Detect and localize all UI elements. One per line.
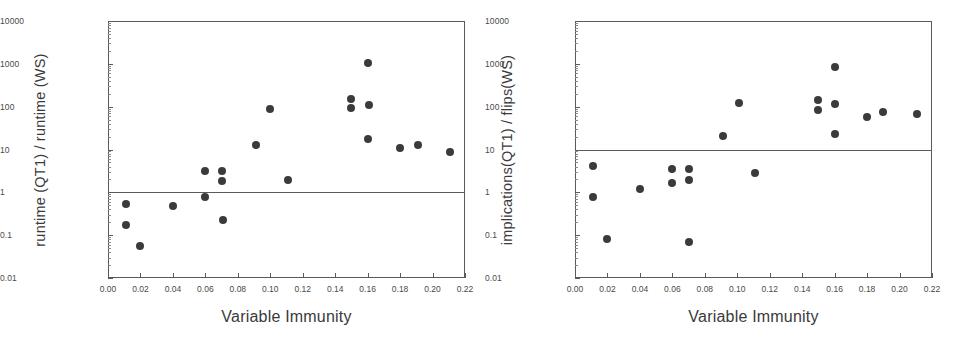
scatter-point	[169, 202, 177, 210]
y-minor-tick-mark	[108, 113, 111, 114]
x-tick-mark	[465, 273, 466, 278]
x-tick-mark	[705, 273, 706, 278]
y-tick-label: 0.01	[485, 273, 571, 283]
y-minor-tick-mark	[575, 38, 578, 39]
y-minor-tick-mark	[108, 38, 111, 39]
y-minor-tick-mark	[108, 237, 111, 238]
y-minor-tick-mark	[108, 167, 111, 168]
x-tick-label: 0.18	[392, 284, 409, 294]
reference-line	[108, 192, 465, 193]
y-minor-tick-mark	[108, 81, 111, 82]
y-minor-tick-mark	[575, 111, 578, 112]
y-minor-tick-mark	[575, 205, 578, 206]
y-tick-mark	[575, 278, 580, 279]
y-tick-label: 0.01	[0, 273, 104, 283]
scatter-point	[685, 165, 693, 173]
scatter-point	[831, 130, 839, 138]
x-tick-label: 0.06	[197, 284, 214, 294]
y-minor-tick-mark	[108, 209, 111, 210]
y-minor-tick-mark	[575, 167, 578, 168]
y-minor-tick-mark	[575, 239, 578, 240]
x-tick-label: 0.14	[327, 284, 344, 294]
panel-right: 0.010.11101001000100000.000.020.040.060.…	[485, 0, 970, 349]
x-tick-mark	[205, 273, 206, 278]
y-minor-tick-mark	[575, 151, 578, 152]
y-minor-tick-mark	[575, 34, 578, 35]
x-tick-label: 0.16	[826, 284, 843, 294]
x-tick-label: 0.20	[424, 284, 441, 294]
scatter-point	[751, 169, 759, 177]
y-minor-tick-mark	[575, 196, 578, 197]
x-axis-title: Variable Immunity	[221, 308, 351, 326]
y-minor-tick-mark	[108, 242, 111, 243]
x-tick-mark	[575, 273, 576, 278]
x-tick-mark	[140, 273, 141, 278]
scatter-point	[636, 185, 644, 193]
x-tick-label: 0.20	[891, 284, 908, 294]
y-minor-tick-mark	[575, 222, 578, 223]
y-minor-tick-mark	[575, 73, 578, 74]
scatter-point	[364, 135, 372, 143]
y-minor-tick-mark	[108, 34, 111, 35]
y-tick-mark	[575, 107, 580, 108]
x-axis-title: Variable Immunity	[688, 308, 818, 326]
y-minor-tick-mark	[108, 28, 111, 29]
x-tick-mark	[835, 273, 836, 278]
y-minor-tick-mark	[575, 116, 578, 117]
y-minor-tick-mark	[575, 109, 578, 110]
y-minor-tick-mark	[575, 194, 578, 195]
y-minor-tick-mark	[575, 51, 578, 52]
y-tick-mark	[108, 107, 113, 108]
x-tick-label: 0.00	[100, 284, 117, 294]
y-minor-tick-mark	[108, 124, 111, 125]
y-minor-tick-mark	[575, 252, 578, 253]
y-minor-tick-mark	[575, 202, 578, 203]
x-tick-label: 0.16	[359, 284, 376, 294]
y-minor-tick-mark	[108, 222, 111, 223]
x-tick-mark	[303, 273, 304, 278]
y-minor-tick-mark	[575, 68, 578, 69]
x-tick-mark	[802, 273, 803, 278]
scatter-point	[218, 177, 226, 185]
x-tick-label: 0.10	[262, 284, 279, 294]
x-tick-label: 0.04	[165, 284, 182, 294]
y-tick-label: 100	[0, 102, 104, 112]
x-tick-label: 0.12	[294, 284, 311, 294]
x-tick-label: 0.08	[230, 284, 247, 294]
y-minor-tick-mark	[108, 202, 111, 203]
y-minor-tick-mark	[575, 215, 578, 216]
y-minor-tick-mark	[108, 31, 111, 32]
scatter-point	[122, 221, 130, 229]
y-minor-tick-mark	[575, 179, 578, 180]
x-tick-mark	[238, 273, 239, 278]
y-axis-title: runtime (QT1) / runtime (WS)	[32, 53, 48, 246]
scatter-point	[414, 141, 422, 149]
y-minor-tick-mark	[108, 86, 111, 87]
y-minor-tick-mark	[108, 199, 111, 200]
y-minor-tick-mark	[108, 151, 111, 152]
y-minor-tick-mark	[108, 179, 111, 180]
x-tick-mark	[400, 273, 401, 278]
y-minor-tick-mark	[108, 51, 111, 52]
y-minor-tick-mark	[575, 258, 578, 259]
plot-frame	[108, 21, 465, 278]
y-minor-tick-mark	[108, 194, 111, 195]
y-minor-tick-mark	[575, 137, 578, 138]
y-minor-tick-mark	[108, 66, 111, 67]
y-tick-label: 10	[0, 145, 104, 155]
y-tick-mark	[108, 150, 113, 151]
scatter-point	[831, 63, 839, 71]
x-tick-label: 0.22	[457, 284, 474, 294]
y-minor-tick-mark	[575, 154, 578, 155]
scatter-point	[347, 95, 355, 103]
y-minor-tick-mark	[108, 172, 111, 173]
x-tick-mark	[607, 273, 608, 278]
scatter-point	[735, 99, 743, 107]
x-tick-label: 0.02	[599, 284, 616, 294]
y-minor-tick-mark	[108, 137, 111, 138]
scatter-point	[365, 101, 373, 109]
scatter-point	[863, 113, 871, 121]
y-minor-tick-mark	[108, 215, 111, 216]
y-tick-mark	[575, 21, 580, 22]
scatter-point	[364, 59, 372, 67]
